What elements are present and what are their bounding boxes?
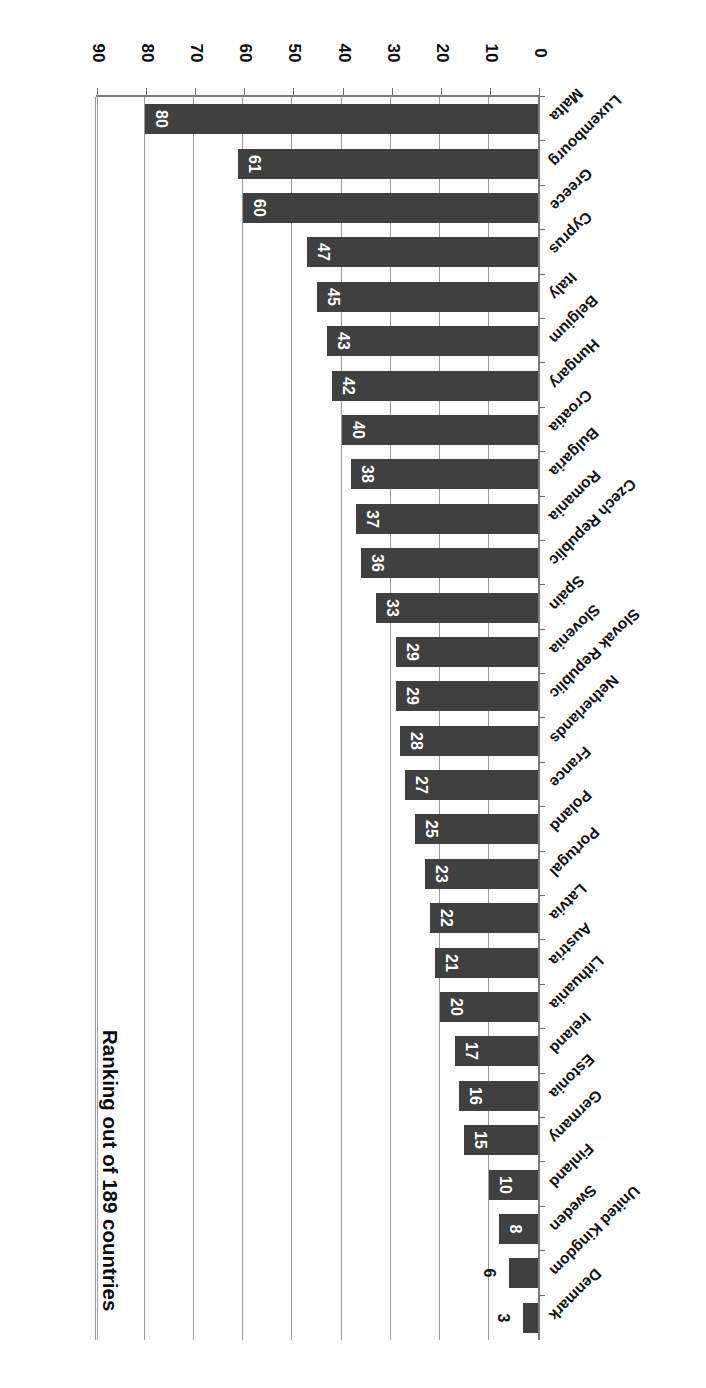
axis-tick-label: 50 [284, 30, 304, 76]
axis-tick-label: 70 [186, 30, 206, 76]
bar [243, 193, 538, 223]
axis-tick-mark [97, 88, 98, 95]
category-tick-mark [538, 939, 545, 940]
bar-row: 23 [96, 859, 538, 889]
bar-value-label: 10 [490, 1168, 520, 1202]
bar-value-label: 40 [343, 413, 373, 447]
value-axis-line [96, 95, 540, 97]
category-axis-label: France [541, 739, 598, 796]
bar-value-label: 36 [362, 546, 392, 580]
category-tick-mark [538, 984, 545, 985]
bar [523, 1303, 538, 1333]
bar-row: 28 [96, 726, 538, 756]
bar-value-label: 23 [426, 857, 456, 891]
axis-tick-mark [441, 88, 442, 95]
bar-row: 29 [96, 637, 538, 667]
category-tick-mark [538, 229, 545, 230]
category-tick-mark [538, 140, 545, 141]
bar [327, 326, 538, 356]
bar-value-label: 17 [456, 1034, 486, 1068]
bar-row: 80 [96, 104, 538, 134]
category-tick-mark [538, 584, 545, 585]
bar [307, 237, 538, 267]
bar-value-label: 27 [406, 768, 436, 802]
axis-tick-label: 30 [383, 30, 403, 76]
axis-tick-mark [490, 88, 491, 95]
bar-value-label: 25 [416, 812, 446, 846]
category-tick-mark [538, 274, 545, 275]
bar-row: 45 [96, 282, 538, 312]
bar-value-label: 43 [328, 324, 358, 358]
category-tick-mark [538, 496, 545, 497]
bar-row: 37 [96, 504, 538, 534]
category-tick-mark [538, 718, 545, 719]
bar [145, 104, 538, 134]
bar-chart-figure: 3681015161720212223252728292933363738404… [0, 0, 706, 1388]
bar-value-label: 20 [441, 990, 471, 1024]
bar-value-label: 16 [460, 1079, 490, 1113]
category-tick-mark [538, 673, 545, 674]
axis-tick-label: 0 [530, 30, 550, 76]
category-tick-mark [538, 806, 545, 807]
axis-tick-label: 80 [137, 30, 157, 76]
bar-row: 38 [96, 459, 538, 489]
bar-row: 36 [96, 548, 538, 578]
category-axis-label: Ireland [541, 1005, 598, 1062]
bar-value-label: 29 [397, 679, 427, 713]
category-tick-mark [538, 629, 545, 630]
bar [238, 149, 538, 179]
category-tick-mark [538, 762, 545, 763]
bar-value-label: 8 [500, 1212, 530, 1246]
category-tick-mark [538, 851, 545, 852]
bar-row: 40 [96, 415, 538, 445]
category-tick-mark [538, 407, 545, 408]
bar-value-label: 42 [333, 369, 363, 403]
bar-row: 20 [96, 992, 538, 1022]
bar-row: 42 [96, 371, 538, 401]
category-tick-mark [538, 1206, 545, 1207]
category-axis-label: Greece [541, 160, 599, 218]
bar-value-label: 33 [377, 591, 407, 625]
axis-tick-mark [146, 88, 147, 95]
category-tick-mark [538, 1028, 545, 1029]
axis-tick-mark [539, 88, 540, 95]
bar [317, 282, 538, 312]
bar-value-label: 60 [244, 191, 274, 225]
bar-row: 21 [96, 948, 538, 978]
bar-row: 29 [96, 681, 538, 711]
bar-row: 33 [96, 593, 538, 623]
page-title: Ranking out of 189 countries [98, 1030, 122, 1311]
category-tick-mark [538, 362, 545, 363]
bar-row: 43 [96, 326, 538, 356]
bar-value-label: 61 [239, 147, 269, 181]
bar-row: 47 [96, 237, 538, 267]
axis-tick-label: 90 [88, 30, 108, 76]
bar-row: 22 [96, 903, 538, 933]
category-tick-mark [538, 1117, 545, 1118]
bar-value-label: 47 [308, 235, 338, 269]
bar-row: 61 [96, 149, 538, 179]
bar-value-label: 37 [357, 502, 387, 536]
category-tick-mark [538, 1073, 545, 1074]
bar-value-label: 21 [436, 946, 466, 980]
axis-tick-mark [195, 88, 196, 95]
axis-tick-mark [343, 88, 344, 95]
bar-value-label: 22 [431, 901, 461, 935]
bar-value-label: 28 [402, 724, 432, 758]
axis-tick-mark [392, 88, 393, 95]
category-axis-label: Latvia [541, 876, 594, 929]
category-axis-labels: DenmarkUnited KingdomSwedenFinlandGerman… [546, 97, 706, 1340]
bar-value-label: 29 [397, 635, 427, 669]
category-tick-mark [538, 1250, 545, 1251]
axis-tick-label: 60 [235, 30, 255, 76]
category-tick-mark [538, 451, 545, 452]
category-tick-mark [538, 318, 545, 319]
axis-tick-mark [293, 88, 294, 95]
bar-value-label: 15 [465, 1123, 495, 1157]
bar-row: 60 [96, 193, 538, 223]
category-tick-mark [538, 895, 545, 896]
axis-tick-label: 10 [481, 30, 501, 76]
category-axis-label: Cyprus [541, 204, 600, 263]
bar-value-label: 3 [488, 1301, 518, 1335]
chart-title-container: Ranking out of 189 countries [106, 1026, 166, 1326]
